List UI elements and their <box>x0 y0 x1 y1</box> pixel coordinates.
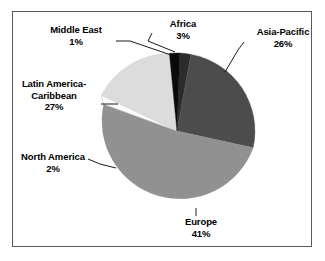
pie-label-europe: Europe 41% <box>168 216 234 239</box>
pie-label-africa: Africa 3% <box>152 18 214 41</box>
pie-label-middle-east-value: 1% <box>32 36 120 48</box>
pie-label-middle-east: Middle East 1% <box>32 24 120 47</box>
pie-label-asia-pacific: Asia-Pacific 26% <box>243 26 323 49</box>
pie-label-africa-name: Africa <box>152 18 214 30</box>
chart-screenshot: Middle East 1% Africa 3% Asia-Pacific 26… <box>0 0 325 261</box>
pie-label-africa-value: 3% <box>152 30 214 42</box>
pie-label-latin-america-line1: Latin America- <box>8 78 100 90</box>
pie-label-europe-value: 41% <box>168 228 234 240</box>
pie-label-north-america-value: 2% <box>6 163 100 175</box>
pie-label-europe-name: Europe <box>168 216 234 228</box>
pie-label-latin-america-value: 27% <box>8 101 100 113</box>
pie-label-latin-america-line2: Caribbean <box>8 90 100 102</box>
leader-line-asia-pacific <box>225 42 244 72</box>
leader-line-middle-east <box>116 41 171 55</box>
pie-label-asia-pacific-value: 26% <box>243 38 323 50</box>
pie-label-middle-east-name: Middle East <box>32 24 120 36</box>
pie-label-latin-america-caribbean: Latin America- Caribbean 27% <box>8 78 100 113</box>
pie-label-north-america-name: North America <box>6 151 100 163</box>
pie-label-north-america: North America 2% <box>6 151 100 174</box>
pie-label-asia-pacific-name: Asia-Pacific <box>243 26 323 38</box>
